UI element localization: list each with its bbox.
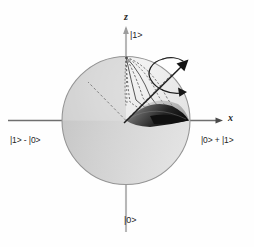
- state-label-north: |1>: [130, 31, 142, 40]
- rotation-curve-tail: [163, 58, 183, 61]
- bloch-sphere-canvas: [0, 0, 254, 247]
- state-label-west: |1> - |0>: [10, 136, 40, 145]
- state-label-east: |0> + |1>: [201, 136, 234, 145]
- x-axis-label: x: [228, 113, 233, 123]
- bloch-sphere-figure: z x |1> |0> |1> - |0> |0> + |1>: [0, 0, 254, 247]
- sphere-lower-hemisphere: [62, 121, 190, 185]
- x-axis-arrowhead: [216, 118, 224, 124]
- state-label-south: |0>: [124, 216, 136, 225]
- z-axis-arrowhead: [123, 26, 129, 34]
- z-axis-label: z: [124, 12, 128, 22]
